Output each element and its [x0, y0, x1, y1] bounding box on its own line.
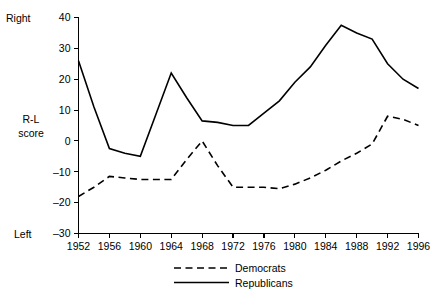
x-tick-label: 1952	[67, 240, 91, 252]
y-tick-label: –10	[53, 166, 71, 178]
y-tick-label: –20	[53, 196, 71, 208]
legend-label-republicans: Republicans	[235, 277, 293, 289]
x-tick-label: 1984	[314, 240, 338, 252]
x-tick-label: 1992	[376, 240, 400, 252]
y-axis-bottom-anchor-label: Left	[14, 228, 32, 240]
line-chart: –30–20–10010203040 195219561960196419681…	[0, 0, 444, 296]
y-axis-label-line1: R-L	[23, 113, 40, 125]
y-tick-label: 40	[59, 11, 71, 23]
x-tick-label: 1988	[345, 240, 369, 252]
y-tick-label: 20	[59, 73, 71, 85]
x-tick-label: 1964	[160, 240, 184, 252]
x-tick-label: 1960	[129, 240, 153, 252]
x-tick-label: 1972	[221, 240, 245, 252]
chart-container: –30–20–10010203040 195219561960196419681…	[0, 0, 444, 296]
y-tick-label: 0	[65, 135, 71, 147]
y-tick-label: –30	[53, 227, 71, 239]
x-tick-label: 1956	[98, 240, 122, 252]
y-tick-label: 10	[59, 104, 71, 116]
x-tick-label: 1968	[190, 240, 214, 252]
legend-label-democrats: Democrats	[235, 262, 286, 274]
x-tick-label: 1976	[252, 240, 276, 252]
y-tick-label: 30	[59, 42, 71, 54]
x-tick-label: 1996	[407, 240, 431, 252]
y-axis-label-line2: score	[18, 127, 44, 139]
x-tick-label: 1980	[283, 240, 307, 252]
y-axis-top-anchor-label: Right	[6, 12, 31, 24]
